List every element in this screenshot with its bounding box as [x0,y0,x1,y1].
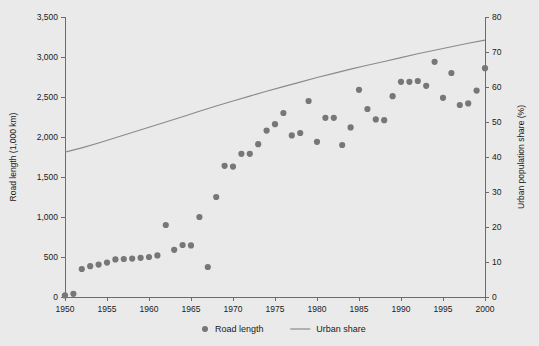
legend-marker-dot [202,326,208,332]
road-length-point [247,151,253,157]
y2-tick-label: 70 [492,47,502,57]
road-length-point [62,292,68,298]
road-length-point [112,256,118,262]
road-length-point [406,79,412,85]
road-length-point [171,247,177,253]
road-length-point [272,121,278,127]
road-length-point [390,93,396,99]
road-length-point [482,65,488,71]
road-length-point [348,124,354,130]
road-length-point [79,266,85,272]
road-length-point [373,116,379,122]
x-tick-label: 1965 [182,304,201,314]
legend-label: Urban share [316,324,366,334]
road-length-point [180,242,186,248]
road-length-point [138,255,144,261]
x-tick-label: 1950 [56,304,75,314]
road-length-point [264,128,270,134]
y-tick-label: 2,000 [37,132,59,142]
road-length-point [423,83,429,89]
y-axis-left-label: Road length (1,000 km) [8,112,18,201]
y-axis-right-label: Urban population share (%) [516,105,526,209]
road-length-point [121,256,127,262]
road-length-point [222,163,228,169]
road-length-point [314,139,320,145]
road-length-point [213,194,219,200]
x-tick-label: 1955 [98,304,117,314]
road-length-point [306,98,312,104]
y2-tick-label: 20 [492,222,502,232]
road-length-point [230,164,236,170]
legend-label: Road length [215,324,264,334]
road-length-point [381,117,387,123]
y2-tick-label: 10 [492,257,502,267]
y-tick-label: 2,500 [37,92,59,102]
road-length-point [331,115,337,121]
road-length-point [440,95,446,101]
x-tick-label: 1990 [392,304,411,314]
x-tick-label: 1995 [434,304,453,314]
x-tick-label: 1980 [308,304,327,314]
road-length-point [255,141,261,147]
y2-tick-label: 40 [492,152,502,162]
x-tick-label: 1960 [140,304,159,314]
x-tick-label: 2000 [476,304,495,314]
road-length-point [457,102,463,108]
chart-figure: 05001,0001,5002,0002,5003,0003,500 01020… [0,0,539,346]
y-tick-label: 0 [53,292,58,302]
road-length-point [205,264,211,270]
road-length-point [163,222,169,228]
road-length-point [129,256,135,262]
road-length-point [339,142,345,148]
road-length-point [398,79,404,85]
x-tick-label: 1970 [224,304,243,314]
y2-tick-label: 80 [492,12,502,22]
road-length-point [104,260,110,266]
road-length-point [356,87,362,93]
y2-tick-label: 0 [492,292,497,302]
y-tick-label: 3,000 [37,52,59,62]
road-length-point [474,88,480,94]
x-tick-label: 1985 [350,304,369,314]
road-length-point [154,252,160,258]
road-length-point [70,291,76,297]
road-length-point [465,100,471,106]
road-length-point [432,59,438,65]
y-tick-label: 1,000 [37,212,59,222]
y-tick-label: 500 [44,252,58,262]
road-length-point [87,263,93,269]
x-tick-label: 1975 [266,304,285,314]
road-length-point [238,151,244,157]
y2-tick-label: 50 [492,117,502,127]
road-length-point [289,132,295,138]
road-length-point [448,70,454,76]
road-length-point [297,130,303,136]
road-length-point [415,78,421,84]
road-length-point [96,262,102,268]
road-length-point [146,254,152,260]
y2-tick-label: 60 [492,82,502,92]
y-tick-label: 1,500 [37,172,59,182]
chart-canvas: 05001,0001,5002,0002,5003,0003,500 01020… [0,0,539,346]
road-length-point [188,242,194,248]
figure-background [0,0,539,346]
road-length-point [364,106,370,112]
y-tick-label: 3,500 [37,12,59,22]
road-length-point [196,214,202,220]
y2-tick-label: 30 [492,187,502,197]
road-length-point [280,110,286,116]
road-length-point [322,115,328,121]
